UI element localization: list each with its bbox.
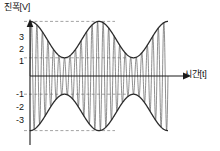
y-axis-arrowhead	[27, 19, 34, 27]
x-axis-arrowhead	[183, 73, 191, 80]
plot-canvas	[0, 0, 220, 151]
envelope-lower-curve	[30, 94, 168, 130]
am-waveform-figure: 진폭[V] 시간[t] 3 2 1 -1 -2 -3	[0, 0, 220, 151]
envelope-upper-curve	[30, 21, 168, 57]
